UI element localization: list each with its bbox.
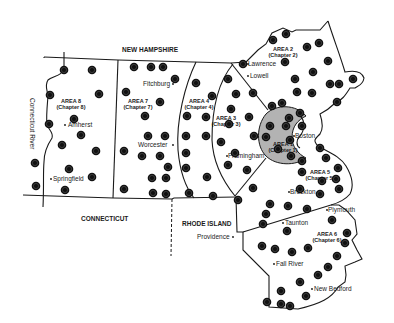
chapter-marker[interactable] xyxy=(192,79,201,88)
chapter-marker[interactable] xyxy=(262,133,271,142)
chapter-marker[interactable] xyxy=(231,149,240,158)
chapter-marker[interactable] xyxy=(343,229,352,238)
chapter-marker[interactable] xyxy=(302,292,311,301)
chapter-marker[interactable] xyxy=(291,75,300,84)
chapter-marker[interactable] xyxy=(224,75,233,84)
chapter-marker[interactable] xyxy=(162,174,171,183)
chapter-marker[interactable] xyxy=(296,109,305,118)
chapter-marker[interactable] xyxy=(335,80,344,89)
chapter-marker[interactable] xyxy=(263,298,272,307)
chapter-marker[interactable] xyxy=(224,161,233,170)
chapter-marker[interactable] xyxy=(208,92,217,101)
chapter-marker[interactable] xyxy=(282,122,291,131)
chapter-marker[interactable] xyxy=(182,149,191,158)
chapter-marker[interactable] xyxy=(341,239,350,248)
chapter-marker[interactable] xyxy=(266,200,275,209)
chapter-marker[interactable] xyxy=(274,145,283,154)
chapter-marker[interactable] xyxy=(164,163,173,172)
chapter-marker[interactable] xyxy=(303,205,312,214)
chapter-marker[interactable] xyxy=(287,152,296,161)
chapter-marker[interactable] xyxy=(296,278,305,287)
chapter-marker[interactable] xyxy=(328,216,337,225)
chapter-marker[interactable] xyxy=(271,245,280,254)
chapter-marker[interactable] xyxy=(309,68,318,77)
chapter-marker[interactable] xyxy=(250,132,259,141)
chapter-marker[interactable] xyxy=(65,165,74,174)
chapter-marker[interactable] xyxy=(259,220,268,229)
chapter-marker[interactable] xyxy=(239,60,248,69)
chapter-marker[interactable] xyxy=(249,184,258,193)
chapter-marker[interactable] xyxy=(322,154,331,163)
chapter-marker[interactable] xyxy=(333,98,342,107)
chapter-marker[interactable] xyxy=(314,271,323,280)
chapter-marker[interactable] xyxy=(262,210,271,219)
chapter-marker[interactable] xyxy=(277,300,286,309)
chapter-marker[interactable] xyxy=(234,196,243,205)
chapter-marker[interactable] xyxy=(318,177,327,186)
chapter-marker[interactable] xyxy=(298,157,307,166)
chapter-marker[interactable] xyxy=(304,244,313,253)
chapter-marker[interactable] xyxy=(278,99,287,108)
chapter-marker[interactable] xyxy=(120,185,129,194)
chapter-marker[interactable] xyxy=(171,75,180,84)
chapter-marker[interactable] xyxy=(202,132,211,141)
chapter-marker[interactable] xyxy=(283,227,292,236)
chapter-marker[interactable] xyxy=(324,57,333,66)
chapter-marker[interactable] xyxy=(45,120,54,129)
chapter-marker[interactable] xyxy=(148,174,157,183)
chapter-marker[interactable] xyxy=(77,131,86,140)
chapter-marker[interactable] xyxy=(315,39,324,48)
chapter-marker[interactable] xyxy=(284,202,293,211)
chapter-marker[interactable] xyxy=(46,91,55,100)
chapter-marker[interactable] xyxy=(332,175,341,184)
chapter-marker[interactable] xyxy=(217,138,226,147)
chapter-marker[interactable] xyxy=(182,132,191,141)
chapter-marker[interactable] xyxy=(203,173,212,182)
chapter-marker[interactable] xyxy=(159,63,168,72)
chapter-marker[interactable] xyxy=(149,189,158,198)
chapter-marker[interactable] xyxy=(316,144,325,153)
chapter-marker[interactable] xyxy=(334,164,343,173)
chapter-marker[interactable] xyxy=(120,147,129,156)
chapter-marker[interactable] xyxy=(32,182,41,191)
chapter-marker[interactable] xyxy=(141,112,150,121)
chapter-marker[interactable] xyxy=(268,102,277,111)
chapter-marker[interactable] xyxy=(60,66,69,75)
chapter-marker[interactable] xyxy=(286,136,295,145)
chapter-marker[interactable] xyxy=(286,302,295,311)
chapter-marker[interactable] xyxy=(95,90,104,99)
chapter-marker[interactable] xyxy=(88,173,97,182)
chapter-marker[interactable] xyxy=(266,122,275,131)
chapter-marker[interactable] xyxy=(324,263,333,272)
chapter-marker[interactable] xyxy=(249,89,258,98)
chapter-marker[interactable] xyxy=(335,185,344,194)
chapter-marker[interactable] xyxy=(92,147,101,156)
chapter-marker[interactable] xyxy=(138,152,147,161)
chapter-marker[interactable] xyxy=(303,43,312,52)
chapter-marker[interactable] xyxy=(245,113,254,122)
chapter-marker[interactable] xyxy=(333,252,342,261)
chapter-marker[interactable] xyxy=(225,120,234,129)
chapter-marker[interactable] xyxy=(182,164,191,173)
chapter-marker[interactable] xyxy=(183,112,192,121)
chapter-marker[interactable] xyxy=(70,115,79,124)
chapter-marker[interactable] xyxy=(202,113,211,122)
chapter-marker[interactable] xyxy=(326,80,335,89)
chapter-marker[interactable] xyxy=(147,63,156,72)
chapter-marker[interactable] xyxy=(31,159,40,168)
chapter-marker[interactable] xyxy=(232,90,241,99)
chapter-marker[interactable] xyxy=(156,98,165,107)
chapter-marker[interactable] xyxy=(296,185,305,194)
chapter-marker[interactable] xyxy=(298,122,307,131)
chapter-marker[interactable] xyxy=(293,88,302,97)
chapter-marker[interactable] xyxy=(316,190,325,199)
chapter-marker[interactable] xyxy=(308,89,317,98)
chapter-marker[interactable] xyxy=(258,242,267,251)
chapter-marker[interactable] xyxy=(281,58,290,67)
chapter-marker[interactable] xyxy=(156,152,165,161)
chapter-marker[interactable] xyxy=(209,192,218,201)
chapter-marker[interactable] xyxy=(298,168,307,177)
chapter-marker[interactable] xyxy=(269,36,278,45)
chapter-marker[interactable] xyxy=(185,189,194,198)
chapter-marker[interactable] xyxy=(349,75,358,84)
